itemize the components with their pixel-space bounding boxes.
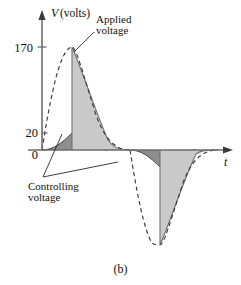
y-axis-label-symbol: V (51, 6, 60, 20)
y-tick-label-0: 0 (32, 148, 38, 162)
y-tick-label-20: 20 (26, 126, 39, 140)
controlling-voltage-label-line2: voltage (28, 191, 60, 203)
applied-voltage-region (72, 47, 218, 245)
axes (28, 10, 233, 154)
waveform-chart: 170 20 0 V (volts) t Applied voltage Con… (0, 0, 241, 285)
controlling-voltage-negative-fill (130, 150, 160, 167)
y-axis-arrowhead (38, 10, 45, 20)
conduction-negative-fill (160, 150, 218, 245)
conduction-positive-fill (72, 47, 130, 150)
y-axis-label-units: (volts) (60, 7, 90, 20)
y-tick-label-170: 170 (14, 41, 33, 55)
applied-voltage-label-line2: voltage (96, 24, 128, 36)
figure-container: 170 20 0 V (volts) t Applied voltage Con… (0, 0, 241, 285)
controlling-voltage-leader-line-left (43, 134, 62, 177)
controlling-voltage-positive-fill (42, 133, 72, 150)
figure-caption: (b) (0, 262, 241, 277)
x-axis-label: t (224, 155, 228, 169)
applied-voltage-leader-line (74, 32, 94, 52)
controlling-voltage-leader-line-right (43, 162, 118, 177)
x-axis-arrowhead (223, 146, 233, 153)
